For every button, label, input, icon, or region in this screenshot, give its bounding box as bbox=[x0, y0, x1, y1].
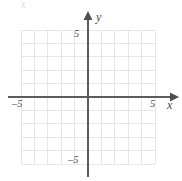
x-tick-label-positive-5: 5 bbox=[150, 99, 155, 110]
y-axis-label: y bbox=[96, 11, 101, 23]
y-tick-label-negative-5: –5 bbox=[68, 155, 79, 166]
y-axis bbox=[84, 11, 93, 177]
x-tick-label-negative-5: –5 bbox=[12, 99, 23, 110]
scan-artifact bbox=[20, 2, 27, 8]
x-axis-label: x bbox=[167, 99, 172, 111]
y-tick-label-positive-5: 5 bbox=[74, 29, 79, 40]
coordinate-plane-figure: y x 5 –5 5 –5 bbox=[0, 0, 182, 181]
y-axis-arrowhead bbox=[84, 11, 93, 20]
graph-canvas bbox=[0, 0, 182, 181]
